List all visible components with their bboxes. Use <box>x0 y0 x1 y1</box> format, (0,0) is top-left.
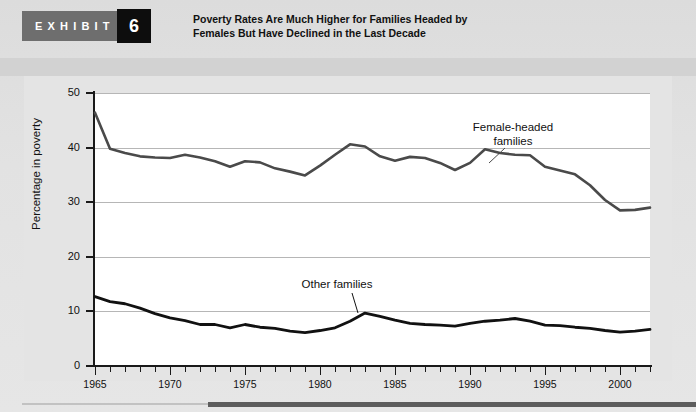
x-tick-1989 <box>455 367 456 372</box>
exhibit-label-text: EXHIBIT <box>35 20 115 32</box>
y-tick-label-0: 0 <box>40 359 80 371</box>
x-tick-1990 <box>470 367 471 375</box>
x-tick-1992 <box>500 367 501 372</box>
x-tick-1982 <box>350 367 351 372</box>
x-tick-1973 <box>215 367 216 372</box>
bottom-rule <box>208 402 696 407</box>
annotation-female-line-1: Female-headed <box>473 121 554 133</box>
x-tick-1998 <box>590 367 591 372</box>
x-tick-label-1990: 1990 <box>447 378 493 390</box>
x-tick-1968 <box>140 367 141 372</box>
x-tick-label-1965: 1965 <box>72 378 118 390</box>
x-tick-1965 <box>95 367 96 375</box>
x-tick-1969 <box>155 367 156 372</box>
exhibit-number-badge: 6 <box>117 9 151 43</box>
x-tick-1979 <box>305 367 306 372</box>
y-tick-label-20: 20 <box>40 250 80 262</box>
x-tick-1966 <box>110 367 111 372</box>
y-tick-label-30: 30 <box>40 195 80 207</box>
y-axis-line <box>93 91 95 367</box>
gridline-y-20 <box>95 257 650 258</box>
x-tick-1985 <box>395 367 396 375</box>
y-tick-label-50: 50 <box>40 86 80 98</box>
x-tick-1993 <box>515 367 516 372</box>
x-tick-label-2000: 2000 <box>597 378 643 390</box>
x-tick-1994 <box>530 367 531 372</box>
x-tick-1995 <box>545 367 546 375</box>
x-tick-1991 <box>485 367 486 372</box>
x-tick-label-1980: 1980 <box>297 378 343 390</box>
annotation-other-label: Other families <box>302 278 373 290</box>
x-tick-label-1970: 1970 <box>147 378 193 390</box>
x-tick-1999 <box>605 367 606 372</box>
y-axis-title: Percentage in poverty <box>30 79 42 269</box>
page-title-line-1: Poverty Rates Are Much Higher for Famili… <box>193 13 613 27</box>
header-band <box>0 58 696 76</box>
x-tick-1986 <box>410 367 411 372</box>
page-title: Poverty Rates Are Much Higher for Famili… <box>193 13 613 40</box>
x-tick-1981 <box>335 367 336 372</box>
x-axis-line <box>93 365 652 367</box>
y-tick-label-10: 10 <box>40 304 80 316</box>
x-tick-1984 <box>380 367 381 372</box>
x-tick-1971 <box>185 367 186 372</box>
gridline-y-30 <box>95 202 650 203</box>
x-tick-label-1985: 1985 <box>372 378 418 390</box>
exhibit-number-text: 6 <box>129 16 139 37</box>
x-tick-1997 <box>575 367 576 372</box>
x-tick-1970 <box>170 367 171 375</box>
gridline-y-50 <box>95 93 650 94</box>
x-tick-1974 <box>230 367 231 372</box>
x-tick-2002 <box>650 367 651 372</box>
x-tick-1987 <box>425 367 426 372</box>
x-tick-1996 <box>560 367 561 372</box>
x-tick-1978 <box>290 367 291 372</box>
gridline-y-10 <box>95 311 650 312</box>
y-tick-label-40: 40 <box>40 141 80 153</box>
x-tick-1977 <box>275 367 276 372</box>
x-tick-1972 <box>200 367 201 372</box>
bottom-rule-light <box>22 403 208 405</box>
x-tick-1967 <box>125 367 126 372</box>
x-tick-1988 <box>440 367 441 372</box>
x-tick-1983 <box>365 367 366 372</box>
x-tick-1976 <box>260 367 261 372</box>
annotation-female-line-2: families <box>494 135 533 147</box>
x-tick-label-1995: 1995 <box>522 378 568 390</box>
x-tick-1980 <box>320 367 321 375</box>
x-tick-label-1975: 1975 <box>222 378 268 390</box>
annotation-other-families: Other families <box>282 277 392 291</box>
page-title-line-2: Females But Have Declined in the Last De… <box>193 27 613 41</box>
x-tick-1975 <box>245 367 246 375</box>
x-tick-2001 <box>635 367 636 372</box>
annotation-female-headed-families: Female-headed families <box>453 120 573 148</box>
x-tick-2000 <box>620 367 621 375</box>
